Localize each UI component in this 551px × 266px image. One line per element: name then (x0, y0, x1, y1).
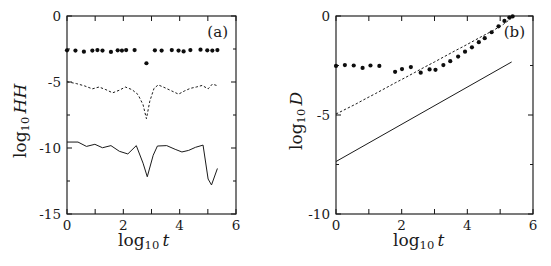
data-point (400, 67, 404, 71)
panel-a-x-axis-variable: t (163, 230, 170, 250)
data-point (133, 48, 137, 52)
svg-a-panel-label: (a) (207, 23, 228, 41)
panel-a-x-axis-title: log10 t (118, 232, 169, 252)
data-point (448, 59, 452, 63)
data-point (210, 48, 214, 52)
data-point (205, 48, 209, 52)
panel-a-x-axis-log: log (118, 230, 145, 250)
data-point (215, 48, 219, 52)
data-point (109, 50, 113, 54)
svg-b-series-solid-line (336, 62, 512, 162)
panel-b: 02460-5-10(b) (275, 0, 550, 266)
data-point (188, 48, 192, 52)
svg-a-series-markers (65, 48, 220, 66)
panel-a-y-axis-base: 10 (18, 117, 32, 132)
svg-a-series-dashed-curve (67, 82, 217, 119)
svg-a-y-ticklabel--5: -5 (48, 74, 61, 90)
panel-b-y-axis-variable: D (286, 92, 306, 106)
data-point (377, 64, 381, 68)
data-point (470, 45, 474, 49)
data-point (144, 61, 148, 65)
data-point (160, 48, 164, 52)
data-point (483, 36, 487, 40)
panel-a-plot: 02460-5-10-15(a) (0, 0, 275, 266)
data-point (343, 63, 347, 67)
panel-a-y-axis-log: log (10, 131, 30, 158)
svg-b-x-ticklabel-0: 0 (332, 217, 341, 233)
svg-a-x-ticklabel-0: 0 (63, 217, 72, 233)
data-point (393, 70, 397, 74)
data-point (433, 68, 437, 72)
svg-b-panel-label: (b) (504, 23, 525, 41)
data-point (90, 48, 94, 52)
svg-a-y-ticklabel--15: -15 (39, 206, 61, 222)
panel-b-y-axis-log: log (286, 123, 306, 150)
panel-a-y-axis-title: log10 HH (12, 84, 32, 158)
data-point (441, 63, 445, 67)
svg-a-x-ticklabel-6: 6 (232, 217, 241, 233)
data-point (116, 48, 120, 52)
panel-b-x-axis-variable: t (438, 230, 445, 250)
panel-a-x-axis-base: 10 (145, 238, 160, 252)
data-point (120, 48, 124, 52)
data-point (352, 63, 356, 67)
svg-b-axis-frame (336, 16, 533, 214)
panel-b-y-axis-title: log10 D (288, 92, 308, 150)
data-point (368, 63, 372, 67)
svg-b-series-markers (334, 14, 515, 74)
data-point (477, 40, 481, 44)
data-point (100, 48, 104, 52)
svg-b-y-ticklabel-0: 0 (321, 8, 330, 24)
data-point (95, 48, 99, 52)
svg-a-series-solid-curve (67, 142, 217, 185)
panel-a: 02460-5-10-15(a) log10 t log10 HH (0, 0, 275, 266)
panel-a-y-axis-variable: HH (10, 84, 30, 114)
panel-b-x-axis-log: log (393, 230, 420, 250)
data-point (463, 50, 467, 54)
svg-b-y-ticklabel--5: -5 (317, 107, 330, 123)
figure-two-panel-log-plots: 02460-5-10-15(a) log10 t log10 HH 02460-… (0, 0, 551, 266)
data-point (409, 65, 413, 69)
svg-b-x-ticklabel-6: 6 (529, 217, 538, 233)
data-point (334, 64, 338, 68)
svg-a-y-ticklabel-0: 0 (52, 8, 61, 24)
panel-b-plot: 02460-5-10(b) (275, 0, 550, 266)
panel-b-y-axis-base: 10 (294, 109, 308, 124)
data-point (198, 48, 202, 52)
svg-b-x-ticklabel-4: 4 (463, 217, 472, 233)
data-point (153, 48, 157, 52)
data-point (360, 66, 364, 70)
data-point (73, 48, 77, 52)
data-point (456, 54, 460, 58)
data-point (182, 49, 186, 53)
data-point (65, 48, 69, 52)
panel-b-x-axis-base: 10 (420, 238, 435, 252)
data-point (176, 48, 180, 52)
svg-b-y-ticklabel--10: -10 (308, 206, 330, 222)
svg-a-x-ticklabel-4: 4 (175, 217, 184, 233)
data-point (124, 48, 128, 52)
panel-b-x-axis-title: log10 t (393, 232, 444, 252)
data-point (427, 67, 431, 71)
data-point (170, 48, 174, 52)
data-point (419, 71, 423, 75)
data-point (82, 50, 86, 54)
svg-a-y-ticklabel--10: -10 (39, 140, 61, 156)
